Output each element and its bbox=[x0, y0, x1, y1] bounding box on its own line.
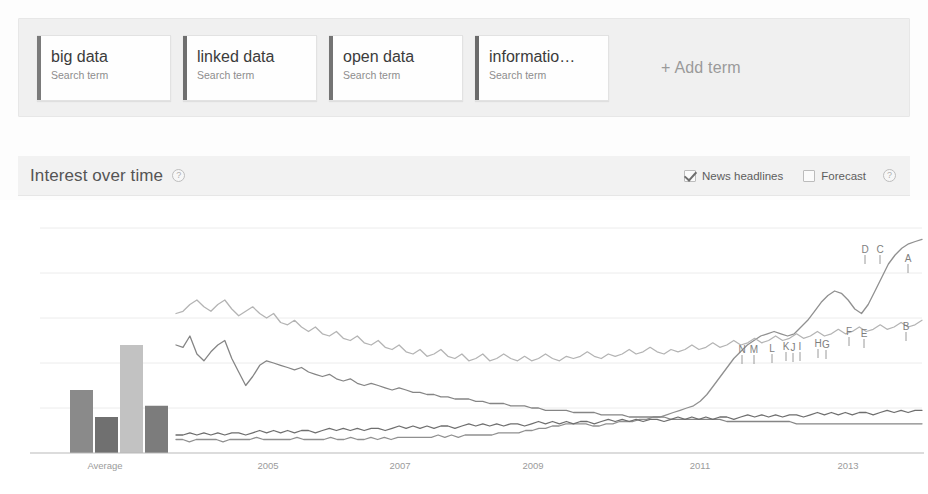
trend-line bbox=[176, 300, 922, 361]
forecast-toggle[interactable]: Forecast bbox=[803, 170, 866, 182]
news-marker-label[interactable]: E bbox=[861, 328, 868, 339]
term-sublabel-1: Search term bbox=[51, 69, 160, 82]
search-term-card-3[interactable]: open data Search term bbox=[329, 35, 463, 101]
x-axis-tick-label: 2005 bbox=[257, 460, 278, 471]
news-marker-group[interactable]: NMLKJIHGFEDCBA bbox=[738, 244, 911, 364]
news-marker-label[interactable]: L bbox=[769, 343, 775, 354]
news-headlines-toggle[interactable]: News headlines bbox=[684, 170, 783, 182]
chart-canvas[interactable]: NMLKJIHGFEDCBA 20052007200920112013Avera… bbox=[0, 200, 928, 494]
term-name-3: open data bbox=[343, 47, 452, 66]
forecast-label: Forecast bbox=[821, 170, 866, 182]
news-marker-label[interactable]: H bbox=[814, 338, 821, 349]
average-bar bbox=[145, 406, 168, 453]
news-marker-label[interactable]: A bbox=[905, 253, 912, 264]
search-term-card-4[interactable]: informatio… Search term bbox=[475, 35, 609, 101]
term-color-bar-3 bbox=[329, 36, 333, 100]
trend-line bbox=[176, 410, 922, 435]
page-title: Interest over time bbox=[30, 166, 163, 186]
news-headlines-checkbox[interactable] bbox=[684, 170, 696, 182]
help-icon[interactable]: ? bbox=[172, 169, 185, 182]
news-marker-label[interactable]: C bbox=[876, 244, 883, 255]
forecast-checkbox[interactable] bbox=[803, 170, 815, 182]
chart-x-axis: 20052007200920112013Average bbox=[30, 453, 924, 471]
add-term-button[interactable]: + Add term bbox=[621, 35, 781, 101]
news-marker-label[interactable]: F bbox=[846, 326, 852, 337]
news-marker-label[interactable]: K bbox=[783, 341, 790, 352]
news-marker-label[interactable]: D bbox=[861, 244, 868, 255]
average-bar bbox=[70, 390, 93, 453]
term-name-2: linked data bbox=[197, 47, 306, 66]
search-terms-list: big data Search term linked data Search … bbox=[37, 35, 781, 101]
news-marker-label[interactable]: J bbox=[791, 342, 796, 353]
news-marker-label[interactable]: I bbox=[799, 341, 802, 352]
search-term-card-2[interactable]: linked data Search term bbox=[183, 35, 317, 101]
news-marker-label[interactable]: M bbox=[750, 344, 758, 355]
interest-over-time-chart[interactable]: NMLKJIHGFEDCBA 20052007200920112013Avera… bbox=[0, 200, 928, 494]
x-axis-tick-label: 2013 bbox=[837, 460, 858, 471]
term-name-4: informatio… bbox=[489, 47, 598, 66]
trend-line bbox=[176, 239, 922, 441]
term-color-bar-4 bbox=[475, 36, 479, 100]
search-term-card-1[interactable]: big data Search term bbox=[37, 35, 171, 101]
search-terms-bar: big data Search term linked data Search … bbox=[18, 18, 910, 117]
forecast-help-icon[interactable]: ? bbox=[883, 169, 896, 182]
term-color-bar-2 bbox=[183, 36, 187, 100]
trend-line bbox=[176, 336, 922, 424]
term-sublabel-3: Search term bbox=[343, 69, 452, 82]
trends-page: big data Search term linked data Search … bbox=[0, 0, 928, 494]
average-bar-group bbox=[70, 345, 168, 453]
interest-over-time-header: Interest over time ? News headlines Fore… bbox=[18, 156, 910, 196]
average-bar bbox=[120, 345, 143, 453]
x-axis-tick-label: 2009 bbox=[522, 460, 543, 471]
term-sublabel-2: Search term bbox=[197, 69, 306, 82]
term-name-1: big data bbox=[51, 47, 160, 66]
term-color-bar-1 bbox=[37, 36, 41, 100]
news-marker-label[interactable]: G bbox=[822, 339, 830, 350]
trend-line-group bbox=[176, 239, 922, 441]
header-controls: News headlines Forecast ? bbox=[684, 169, 896, 182]
term-sublabel-4: Search term bbox=[489, 69, 598, 82]
average-axis-label: Average bbox=[87, 460, 122, 471]
x-axis-tick-label: 2007 bbox=[389, 460, 410, 471]
x-axis-tick-label: 2011 bbox=[690, 460, 710, 471]
news-marker-label[interactable]: B bbox=[903, 321, 910, 332]
average-bar bbox=[95, 417, 118, 453]
news-marker-label[interactable]: N bbox=[738, 344, 745, 355]
news-headlines-label: News headlines bbox=[702, 170, 783, 182]
chart-gridlines bbox=[40, 228, 922, 408]
